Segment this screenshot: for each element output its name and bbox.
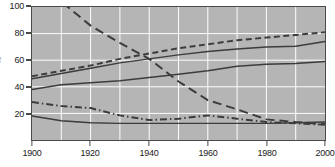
y-axis-tick-label: 60 <box>14 56 26 65</box>
x-axis-tick-mark <box>266 141 268 146</box>
x-axis-tick: 1980 <box>257 141 276 158</box>
y-axis-tick-label: 40 <box>14 83 26 92</box>
y-axis: 20406080100 <box>0 0 31 147</box>
x-axis-tick-label: 1980 <box>257 148 276 158</box>
series-rising-solid-upper <box>32 42 325 79</box>
y-axis-tick-label: 20 <box>14 110 26 119</box>
x-axis-tick-label: 1960 <box>198 148 217 158</box>
plot-area <box>31 6 326 141</box>
x-axis-tick: 1900 <box>22 141 41 158</box>
x-axis-tick-label: 1900 <box>22 148 41 158</box>
x-axis-tick: 1960 <box>198 141 217 158</box>
series-rising-solid-lower <box>32 62 325 90</box>
x-axis-tick-label: 2000 <box>315 148 334 158</box>
x-axis-tick-mark <box>89 141 91 146</box>
x-axis-tick-label: 1940 <box>139 148 158 158</box>
x-axis-tick-label: 1920 <box>80 148 99 158</box>
series-lines <box>32 7 325 140</box>
x-axis-tick-mark <box>31 141 33 146</box>
y-axis-tick-label: 80 <box>14 29 26 38</box>
x-axis-tick-mark <box>148 141 150 146</box>
x-axis-tick: 2000 <box>315 141 334 158</box>
x-axis-tick-mark <box>324 141 326 146</box>
x-axis-tick: 1920 <box>80 141 99 158</box>
x-axis-tick: 1940 <box>139 141 158 158</box>
x-axis: 190019201940196019802000 <box>31 141 326 167</box>
x-axis-tick-mark <box>207 141 209 146</box>
y-axis-tick-label: 100 <box>10 2 26 11</box>
